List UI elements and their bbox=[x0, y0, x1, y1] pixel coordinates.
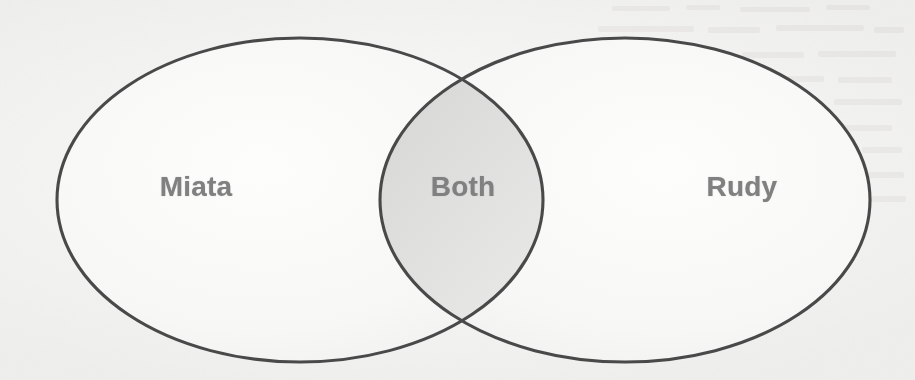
intersection-label: Both bbox=[431, 171, 496, 203]
venn-diagram-page: Miata Both Rudy bbox=[0, 0, 915, 380]
left-set-label: Miata bbox=[160, 171, 233, 203]
right-set-label: Rudy bbox=[707, 171, 778, 203]
